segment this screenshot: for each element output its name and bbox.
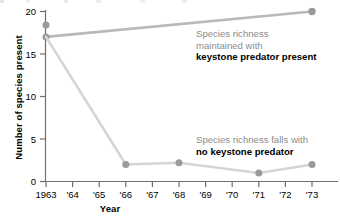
plot-area: 0 5 10 15 20 1963 '64 '65 '66 '67 '68 '6… (0, 0, 340, 221)
species-richness-chart: 0 5 10 15 20 1963 '64 '65 '66 '67 '68 '6… (0, 0, 340, 221)
annotation-bottom-line-1: Species richness falls with (196, 134, 308, 146)
y-tick-label-20: 20 (14, 6, 36, 17)
data-point-1973-lower (309, 161, 316, 168)
x-tick-marks (46, 182, 312, 188)
data-point-1963-upper (43, 22, 50, 29)
annotation-bottom-emphasis: no keystone predator (196, 146, 308, 158)
y-tick-label-0: 0 (14, 176, 36, 187)
annotation-top-line-2: maintained with (196, 40, 317, 52)
x-axis-title: Year (0, 203, 220, 214)
annotation-keystone-present: Species richness maintained with keyston… (196, 28, 317, 63)
annotation-top-line-1: Species richness (196, 28, 317, 40)
data-point-1971-lower (255, 170, 262, 177)
data-point-1968-lower (176, 159, 183, 166)
x-tick-label-73: '73 (295, 189, 329, 200)
y-axis-title: Number of species present (13, 23, 24, 173)
data-point-1973-upper (308, 8, 315, 15)
annotation-no-keystone: Species richness falls with no keystone … (196, 134, 308, 157)
annotation-top-emphasis: keystone predator present (196, 51, 317, 63)
data-point-1966-lower (122, 161, 129, 168)
